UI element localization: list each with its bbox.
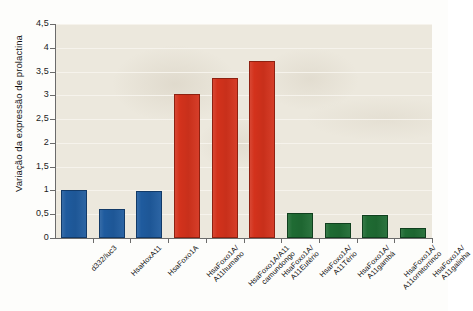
x-axis-label: HsaFoxo1A/A11gambá [356, 244, 397, 285]
y-axis-tick [50, 167, 55, 168]
y-axis-tick [50, 48, 55, 49]
y-axis-tick [50, 24, 55, 25]
x-axis-label-line: d332/luc3 [90, 244, 119, 273]
y-axis-tick-label: 1 [3, 184, 49, 194]
x-axis-tick [357, 239, 358, 243]
gridline [55, 190, 432, 191]
y-axis-tick-label: 2,5 [3, 113, 49, 123]
y-axis-tick-label: 4 [3, 42, 49, 52]
bar-6 [287, 213, 313, 238]
x-axis-tick [432, 239, 433, 243]
x-axis-tick [168, 239, 169, 243]
x-axis-label: d332/luc3 [90, 244, 119, 273]
y-axis-tick [50, 143, 55, 144]
y-axis-tick-label: 3,5 [3, 66, 49, 76]
bar-2 [136, 191, 162, 238]
y-axis-tick-label: 2 [3, 137, 49, 147]
y-axis-tick-label: 3 [3, 89, 49, 99]
x-axis-label: HsaFoxo1A/A11Tério [318, 244, 359, 285]
x-axis-tick [244, 239, 245, 243]
x-axis-label: HsaFoxo1A [167, 244, 201, 278]
x-axis-tick [206, 239, 207, 243]
y-axis-line [55, 24, 56, 239]
y-axis-tick-label: 0 [3, 232, 49, 242]
bar-4 [212, 78, 238, 238]
bar-1 [99, 209, 125, 238]
x-axis-label-line: HsaFoxo1A [167, 244, 201, 278]
bar-5 [249, 61, 275, 238]
bar-0 [61, 190, 87, 238]
x-axis-label: HsaHoxA11 [130, 244, 164, 278]
gridline [55, 143, 432, 144]
x-axis-tick [93, 239, 94, 243]
gridline [55, 48, 432, 49]
y-axis-tick-label: 1,5 [3, 161, 49, 171]
y-axis-tick [50, 72, 55, 73]
y-axis-title: Variação da expressão de prolactina [13, 24, 24, 204]
bar-3 [174, 94, 200, 238]
x-axis-tick [281, 239, 282, 243]
bar-7 [325, 223, 351, 238]
x-axis-tick [394, 239, 395, 243]
bar-8 [362, 215, 388, 238]
gridline [55, 119, 432, 120]
y-axis-tick [50, 238, 55, 239]
y-axis-tick [50, 119, 55, 120]
y-axis-tick [50, 190, 55, 191]
gridline [55, 24, 432, 25]
plot-area-background [55, 24, 432, 238]
x-axis-label: HsaFoxo1A/A11humano [205, 244, 246, 285]
gridline [55, 72, 432, 73]
x-axis-label-line: HsaHoxA11 [130, 244, 164, 278]
y-axis-tick-label: 0,5 [3, 208, 49, 218]
y-axis-tick [50, 95, 55, 96]
x-axis-tick [319, 239, 320, 243]
gridline [55, 167, 432, 168]
y-axis-tick-label: 4,5 [3, 18, 49, 28]
bar-9 [400, 228, 426, 238]
x-axis-tick [130, 239, 131, 243]
y-axis-tick [50, 214, 55, 215]
gridline [55, 95, 432, 96]
